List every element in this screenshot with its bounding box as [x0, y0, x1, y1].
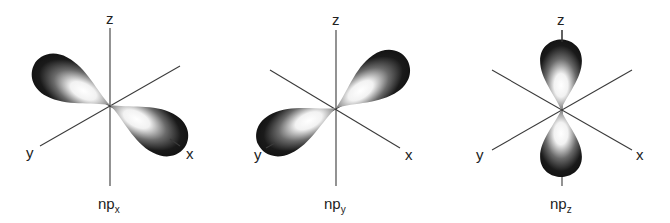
orbital-lobe-upper	[540, 39, 582, 110]
x-axis-label: x	[636, 146, 644, 163]
z-axis-label: z	[332, 11, 340, 28]
caption-npx: npx	[98, 195, 120, 215]
panel-npz: z y x npz	[476, 11, 644, 215]
orbital-lobe-front	[249, 88, 346, 164]
p-orbitals-diagram: z y x npx z y x npy z y x np	[0, 0, 670, 223]
y-axis-label: y	[26, 144, 34, 161]
z-axis-label: z	[557, 11, 565, 28]
caption-npy: npy	[324, 195, 346, 215]
orbital-lobe-front	[100, 86, 197, 165]
y-axis-label: y	[476, 146, 484, 163]
orbital-lobe-lower	[540, 110, 582, 177]
x-axis-label: x	[186, 145, 194, 162]
y-axis-label: y	[254, 146, 262, 163]
orbital-lobe-back	[24, 45, 121, 124]
x-axis-label: x	[405, 146, 413, 163]
caption-npz: npz	[550, 195, 572, 215]
z-axis-label: z	[106, 10, 114, 27]
panel-npx: z y x npx	[24, 10, 197, 215]
panel-npy: z y x npy	[249, 11, 419, 215]
orbital-lobe-back	[323, 41, 419, 126]
